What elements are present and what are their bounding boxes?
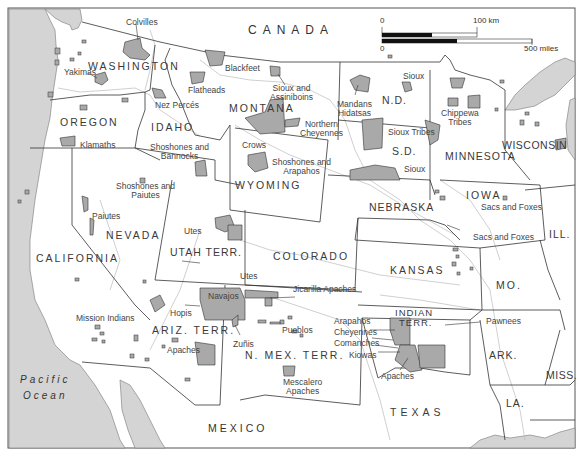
reservation-flatheads <box>190 72 205 84</box>
label-nez-perces: Nez Percés <box>155 101 199 110</box>
label-mission-indians: Mission Indians <box>76 314 135 323</box>
label-blackfeet: Blackfeet <box>225 64 260 73</box>
label-minnesota: MINNESOTA <box>445 151 516 163</box>
label-navajos: Navajos <box>208 292 239 301</box>
reservation-ok-east <box>418 345 445 368</box>
label-sioux-assiniboins: Sioux and Assiniboins <box>270 84 313 103</box>
label-paiutes: Paiutes <box>92 212 120 221</box>
label-northern-cheyennes: Northern Cheyennes <box>300 120 343 139</box>
label-idaho: IDAHO <box>151 122 194 134</box>
label-klamaths: Klamaths <box>80 141 115 150</box>
label-sacs-foxes-iowa: Sacs and Foxes <box>481 203 542 212</box>
label-ariz-terr: ARIZ. TERR. <box>152 325 235 337</box>
scale-km-label: 100 km <box>473 17 499 26</box>
label-indian-terr: INDIAN TERR. <box>395 308 433 329</box>
mandans-line-2: Hidatsas <box>337 109 372 118</box>
label-nebraska: NEBRASKA <box>369 202 434 214</box>
scale-miles-label: 500 miles <box>524 45 558 54</box>
label-canada: CANADA <box>248 24 334 37</box>
label-california: CALIFORNIA <box>36 253 119 265</box>
label-jicarilla-apaches: Jicarilla Apaches <box>293 285 356 294</box>
label-n-mex-terr: N. MEX. TERR. <box>245 350 344 362</box>
ocean-line-2: Ocean <box>20 388 70 404</box>
label-sioux-nd: Sioux <box>403 72 424 81</box>
reservation-jicarilla <box>265 298 272 306</box>
northern-cheyennes-line-2: Cheyennes <box>300 129 343 138</box>
label-flatheads: Flatheads <box>188 86 225 95</box>
label-utes-utah: Utes <box>184 227 201 236</box>
reservation-klamaths <box>60 136 75 146</box>
label-ill: ILL. <box>549 229 571 241</box>
label-pueblos: Pueblos <box>282 326 313 335</box>
label-apaches-ok: Apaches <box>381 372 414 381</box>
label-comanches: Comanches <box>334 339 379 348</box>
label-nd: N.D. <box>382 95 407 107</box>
label-utes-co: Utes <box>240 272 257 281</box>
label-colorado: COLORADO <box>273 251 349 263</box>
label-shoshones-paiutes: Shoshones and Paiutes <box>116 182 175 201</box>
label-utah: UTAH TERR. <box>170 247 242 259</box>
shoshones-bannocks-line-2: Bannocks <box>150 152 209 161</box>
label-shoshones-arapahos: Shoshones and Arapahos <box>272 158 331 177</box>
label-apaches-az: Apaches <box>167 346 200 355</box>
label-miss: MISS. <box>546 370 577 382</box>
scale-miles-zero: 0 <box>380 45 384 54</box>
label-montana: MONTANA <box>229 103 295 115</box>
label-washington: WASHINGTON <box>88 61 180 73</box>
reservation-shoshones-bannocks <box>195 160 207 176</box>
label-pacific-ocean: Pacific Ocean <box>20 372 70 404</box>
label-texas: TEXAS <box>390 407 444 419</box>
label-zunis: Zuñis <box>233 340 254 349</box>
label-yakimas: Yakimas <box>64 68 96 77</box>
label-sioux-tribes: Sioux Tribes <box>388 128 435 137</box>
label-oregon: OREGON <box>60 117 119 129</box>
reservation-chippewa-1 <box>450 78 465 88</box>
shoshones-paiutes-line-2: Paiutes <box>116 191 175 200</box>
label-hopis: Hopis <box>170 309 192 318</box>
label-shoshones-bannocks: Shoshones and Bannocks <box>150 143 209 162</box>
reservation-chippewa-3 <box>468 95 480 108</box>
indian-terr-line-2: TERR. <box>395 318 433 328</box>
mescalero-line-2: Apaches <box>283 387 322 396</box>
sioux-assiniboins-line-2: Assiniboins <box>270 93 313 102</box>
label-sioux-sd: Sioux <box>404 165 425 174</box>
ocean-line-1: Pacific <box>20 372 70 388</box>
label-cheyennes: Cheyennes <box>334 328 377 337</box>
label-mo: MO. <box>496 280 522 292</box>
label-mexico: MEXICO <box>208 423 267 435</box>
label-arapahos: Arapahos <box>334 317 370 326</box>
reservation-uintah <box>228 225 242 240</box>
reservation-chippewa-2 <box>448 98 458 106</box>
scale-km-zero: 0 <box>380 17 384 26</box>
label-crows: Crows <box>242 141 266 150</box>
label-ark: ARK. <box>489 350 518 362</box>
chippewa-line-2: Tribes <box>441 118 479 127</box>
label-wisconsin: WISCONSIN <box>502 140 567 152</box>
label-nevada: NEVADA <box>106 230 160 242</box>
label-kansas: KANSAS <box>390 265 445 277</box>
label-iowa: IOWA <box>466 190 502 202</box>
label-mandans-hidatsas: Mandans Hidatsas <box>337 100 372 119</box>
label-chippewa-tribes: Chippewa Tribes <box>441 109 479 128</box>
label-kiowas: Kiowas <box>349 351 376 360</box>
reservation-mescalero <box>283 366 295 376</box>
label-la: LA. <box>506 398 525 410</box>
label-wyoming: WYOMING <box>235 180 302 192</box>
label-sd: S.D. <box>392 146 416 158</box>
label-pawnees: Pawnees <box>486 317 521 326</box>
label-colvilles: Colvilles <box>126 18 158 27</box>
shoshones-arapahos-line-2: Arapahos <box>272 167 331 176</box>
label-mescalero-apaches: Mescalero Apaches <box>283 378 322 397</box>
label-sacs-foxes-ks: Sacs and Foxes <box>473 233 534 242</box>
reservation-sioux-tribes <box>362 118 383 150</box>
